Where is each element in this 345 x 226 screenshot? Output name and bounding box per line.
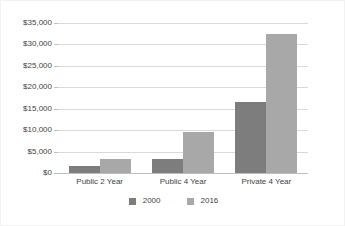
bar-group — [225, 23, 308, 173]
bar-2016-public-4-year — [183, 132, 214, 173]
x-axis-tick-label: Public 2 Year — [58, 178, 141, 186]
y-axis-tick-label: $25,000 — [0, 62, 52, 70]
bar-2016-public-2-year — [100, 159, 131, 173]
y-axis-tick-label: $10,000 — [0, 126, 52, 134]
bar-group — [58, 23, 141, 173]
legend-swatch-icon — [187, 198, 194, 205]
bar-2000-private-4-year — [235, 102, 266, 173]
legend-label: 2000 — [143, 197, 161, 205]
bar-2000-public-4-year — [152, 159, 183, 173]
legend-swatch-icon — [129, 198, 136, 205]
legend-label: 2016 — [201, 197, 219, 205]
x-axis-tick-label: Public 4 Year — [141, 178, 224, 186]
y-axis-tick-label: $30,000 — [0, 40, 52, 48]
bar-group — [141, 23, 224, 173]
legend-item-2000[interactable]: 2000 — [129, 197, 161, 205]
bar-chart: $0$5,000$10,000$15,000$20,000$25,000$30,… — [0, 0, 345, 226]
y-axis-tick — [54, 173, 58, 174]
legend-item-2016[interactable]: 2016 — [187, 197, 219, 205]
bars-layer — [58, 23, 308, 173]
y-axis-tick-label: $15,000 — [0, 105, 52, 113]
y-axis-tick-label: $35,000 — [0, 19, 52, 27]
y-axis-tick-label: $5,000 — [0, 148, 52, 156]
chart-legend: 20002016 — [1, 197, 345, 205]
gridline — [58, 173, 308, 174]
y-axis-tick-label: $0 — [0, 169, 52, 177]
plot-area — [58, 23, 308, 173]
bar-2016-private-4-year — [266, 34, 297, 173]
y-axis-tick-label: $20,000 — [0, 83, 52, 91]
bar-2000-public-2-year — [69, 166, 100, 173]
x-axis-tick-label: Private 4 Year — [225, 178, 308, 186]
